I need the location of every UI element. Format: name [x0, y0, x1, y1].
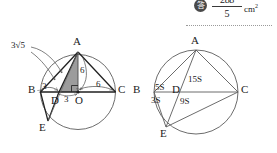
left-vertex-label-e: E — [39, 122, 46, 133]
right-vertex-label-a: A — [191, 35, 199, 46]
left-vertex-label-b: B — [28, 84, 35, 95]
area-label-adc: 15S — [188, 75, 202, 84]
measure-label-ao: 6 — [80, 66, 85, 75]
right-vertex-label-e: E — [160, 128, 167, 139]
segment-ae-right — [166, 50, 196, 127]
right-vertex-label-d: D — [172, 84, 180, 95]
measure-label-oc: 6 — [96, 80, 101, 89]
area-label-bde: 3S — [151, 96, 161, 105]
leader-3root5-a — [31, 47, 62, 73]
left-vertex-label-c: C — [118, 84, 125, 95]
area-label-abd: 5S — [155, 83, 165, 92]
diagram-stage: 答 288 5 cm2 — [0, 0, 277, 153]
right-figure-group — [154, 50, 238, 134]
left-vertex-label-d: D — [51, 95, 59, 106]
segment-ac-right — [196, 50, 238, 92]
right-vertex-label-b: B — [133, 84, 140, 95]
segment-ec-right — [166, 92, 238, 127]
segment-be — [41, 92, 49, 121]
measure-label-bd: 3 — [42, 82, 47, 91]
measure-label-3root5: 3√5 — [11, 41, 25, 50]
left-vertex-label-a: A — [73, 36, 81, 47]
measure-label-do: 3 — [64, 95, 69, 104]
left-vertex-label-o: O — [75, 95, 83, 106]
right-vertex-label-c: C — [241, 84, 248, 95]
area-label-dec: 9S — [180, 97, 190, 106]
